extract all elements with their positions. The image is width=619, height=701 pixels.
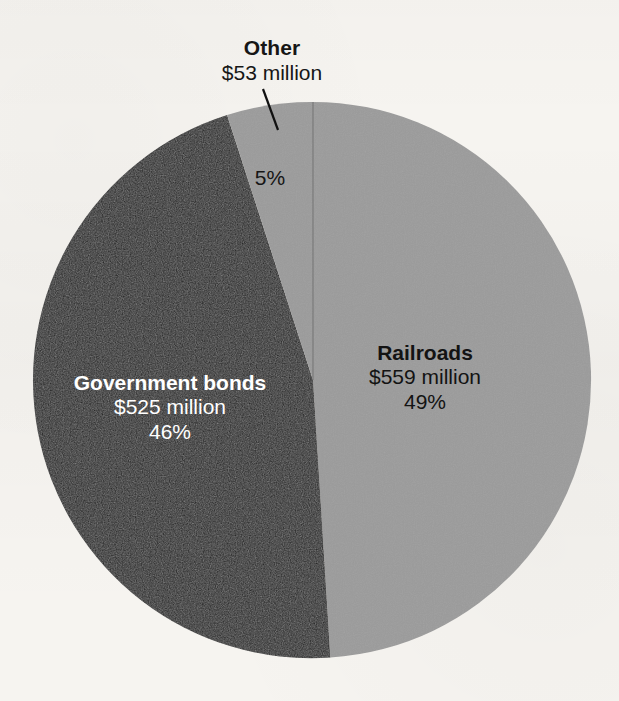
pie-chart-page: Other $53 million 5% Railroads $559 mill… bbox=[0, 0, 619, 701]
slice-label-railroads-name: Railroads bbox=[336, 341, 514, 365]
slice-label-other-value: $53 million bbox=[186, 61, 358, 85]
slice-label-railroads: Railroads $559 million 49% bbox=[336, 341, 514, 414]
slice-label-railroads-percent: 49% bbox=[336, 390, 514, 414]
slice-label-government-bonds: Government bonds $525 million 46% bbox=[62, 371, 278, 444]
slice-label-other: Other $53 million bbox=[186, 36, 358, 86]
slice-label-railroads-value: $559 million bbox=[336, 365, 514, 389]
slice-label-government-bonds-percent: 46% bbox=[62, 420, 278, 444]
slice-label-other-percent: 5% bbox=[238, 166, 302, 190]
slice-label-government-bonds-value: $525 million bbox=[62, 395, 278, 419]
slice-label-other-name: Other bbox=[186, 36, 358, 60]
slice-label-other-percent-wrap: 5% bbox=[238, 166, 302, 190]
slice-label-government-bonds-name: Government bonds bbox=[62, 371, 278, 395]
pie-chart-graphic bbox=[0, 0, 619, 701]
